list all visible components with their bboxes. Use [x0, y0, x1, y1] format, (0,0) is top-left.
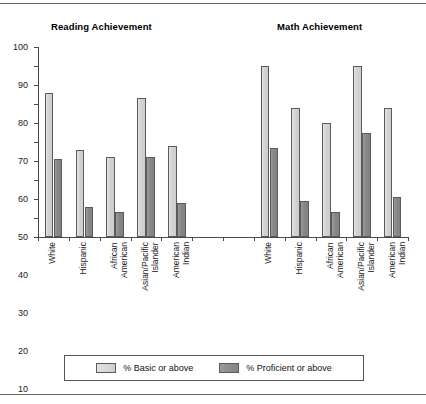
- bar-basic: [353, 66, 362, 237]
- x-tick: [285, 237, 286, 241]
- y-tick-label: 60: [18, 195, 28, 204]
- category-label: Asian/Pacific Islander: [141, 242, 160, 291]
- y-tick-label: 30: [18, 309, 28, 318]
- y-tick: 60: [34, 123, 38, 124]
- y-tick: 30: [34, 180, 38, 181]
- y-tick-label: 10: [18, 385, 28, 394]
- bar-basic: [168, 146, 177, 237]
- bar-basic: [137, 98, 146, 237]
- category-label: American Indian: [388, 242, 407, 278]
- category-label: African American: [110, 242, 129, 278]
- y-tick: 90: [34, 66, 38, 67]
- figure-bottom-rule: [0, 394, 426, 395]
- bar-basic: [106, 157, 115, 237]
- legend-entry-basic: % Basic or above: [96, 363, 193, 373]
- category-label: Hispanic: [295, 242, 305, 275]
- legend-label-proficient: % Proficient or above: [246, 363, 332, 373]
- y-tick-label: 100: [13, 43, 28, 52]
- y-tick: 100: [34, 47, 38, 48]
- bar-prof: [300, 201, 309, 237]
- y-tick-label: 40: [18, 271, 28, 280]
- proficient-swatch-icon: [219, 363, 239, 373]
- bar-prof: [85, 207, 94, 237]
- x-tick: [131, 237, 132, 241]
- plot-area: 0102030405060708090100 WhiteHispanicAfri…: [38, 47, 408, 237]
- bar-prof: [54, 159, 63, 237]
- category-label: White: [48, 242, 58, 264]
- bar-basic: [76, 150, 85, 237]
- y-tick: 40: [34, 161, 38, 162]
- x-tick: [408, 237, 409, 241]
- y-tick: 70: [34, 104, 38, 105]
- y-tick: 20: [34, 199, 38, 200]
- x-tick: [346, 237, 347, 241]
- bar-basic: [261, 66, 270, 237]
- bar-prof: [115, 212, 124, 237]
- bar-prof: [362, 133, 371, 238]
- panel-title-reading: Reading Achievement: [51, 21, 152, 32]
- x-tick: [316, 237, 317, 241]
- x-tick: [69, 237, 70, 241]
- y-tick: 50: [34, 142, 38, 143]
- y-tick: 10: [34, 218, 38, 219]
- x-tick: [192, 237, 193, 241]
- bar-prof: [177, 203, 186, 237]
- figure-top-rule: [0, 3, 426, 4]
- y-tick-label: 70: [18, 157, 28, 166]
- x-tick: [38, 237, 39, 241]
- bar-basic: [45, 93, 54, 237]
- achievement-bar-chart-figure: Reading Achievement Math Achievement 010…: [0, 0, 426, 404]
- bar-prof: [331, 212, 340, 237]
- category-label: African American: [326, 242, 345, 278]
- y-tick-label: 50: [18, 233, 28, 242]
- x-tick: [100, 237, 101, 241]
- category-label: White: [264, 242, 274, 264]
- bar-basic: [322, 123, 331, 237]
- y-axis-line: [38, 47, 39, 237]
- legend-entry-proficient: % Proficient or above: [219, 363, 332, 373]
- x-tick: [377, 237, 378, 241]
- x-tick: [161, 237, 162, 241]
- panel-title-math: Math Achievement: [277, 21, 362, 32]
- category-label: Hispanic: [79, 242, 89, 275]
- legend-label-basic: % Basic or above: [123, 363, 193, 373]
- chart-legend: % Basic or above % Proficient or above: [64, 355, 364, 381]
- basic-swatch-icon: [96, 363, 116, 373]
- category-label: American Indian: [172, 242, 191, 278]
- bar-prof: [146, 157, 155, 237]
- x-tick: [223, 237, 224, 241]
- y-tick-label: 20: [18, 347, 28, 356]
- y-tick-label: 80: [18, 119, 28, 128]
- x-tick: [254, 237, 255, 241]
- bar-basic: [291, 108, 300, 237]
- category-label: Asian/Pacific Islander: [357, 242, 376, 291]
- y-tick-label: 90: [18, 81, 28, 90]
- y-tick: 80: [34, 85, 38, 86]
- bar-prof: [270, 148, 279, 237]
- bar-prof: [393, 197, 402, 237]
- bar-basic: [384, 108, 393, 237]
